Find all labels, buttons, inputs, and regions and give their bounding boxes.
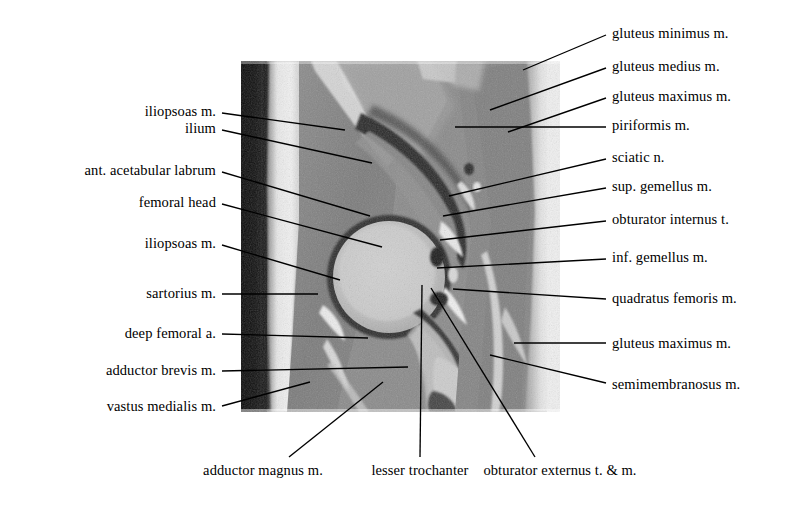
label-obturator-internus-t: obturator internus t. <box>612 212 729 227</box>
label-iliopsoas-m-lower: iliopsoas m. <box>145 236 216 251</box>
label-vastus-medialis-m: vastus medialis m. <box>107 399 216 414</box>
label-adductor-brevis-m: adductor brevis m. <box>106 363 216 378</box>
label-gluteus-maximus-m-2: gluteus maximus m. <box>612 336 731 351</box>
label-ant-acetabular-labrum: ant. acetabular labrum <box>85 163 216 178</box>
label-ilium: ilium <box>185 121 216 136</box>
label-sartorius-m: sartorius m. <box>146 286 216 301</box>
label-iliopsoas-m-upper: iliopsoas m. <box>145 104 216 119</box>
label-sup-gemellus-m: sup. gemellus m. <box>612 179 712 194</box>
label-adductor-magnus-m: adductor magnus m. <box>203 463 323 478</box>
label-gluteus-medius-m: gluteus medius m. <box>612 59 720 74</box>
label-piriformis-m: piriformis m. <box>612 118 690 133</box>
label-gluteus-minimus-m: gluteus minimus m. <box>612 26 729 41</box>
label-quadratus-femoris-m: quadratus femoris m. <box>612 291 737 306</box>
label-femoral-head: femoral head <box>139 195 216 210</box>
anatomy-figure: iliopsoas m.iliumant. acetabular labrumf… <box>0 0 785 513</box>
label-sciatic-n: sciatic n. <box>612 150 665 165</box>
label-deep-femoral-a: deep femoral a. <box>125 326 216 341</box>
label-lesser-trochanter: lesser trochanter <box>371 463 468 478</box>
label-gluteus-maximus-m-1: gluteus maximus m. <box>612 89 731 104</box>
label-obturator-externus-t-m: obturator externus t. & m. <box>483 463 636 478</box>
hip-mri-image <box>241 61 560 412</box>
label-inf-gemellus-m: inf. gemellus m. <box>612 250 708 265</box>
mri-canvas <box>241 61 560 412</box>
label-semimembranosus-m: semimembranosus m. <box>612 377 740 392</box>
